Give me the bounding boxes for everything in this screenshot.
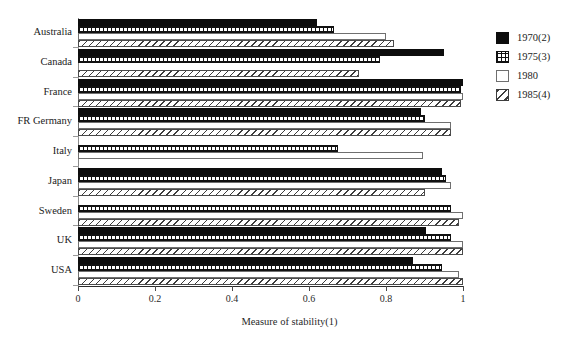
category-label: Japan (0, 175, 72, 186)
bar (78, 33, 386, 40)
bar (78, 19, 317, 26)
x-tick (155, 286, 156, 291)
category-label: France (0, 86, 72, 97)
bar (78, 108, 421, 115)
bar (78, 264, 442, 271)
bar (78, 219, 459, 226)
legend-swatch (496, 89, 509, 101)
x-tick-label: 0 (76, 293, 81, 304)
bar (78, 100, 461, 107)
legend-swatch (496, 70, 509, 82)
bar (78, 182, 451, 189)
bar (78, 122, 451, 129)
x-tick-label: 0.6 (303, 293, 316, 304)
legend-swatch (496, 51, 509, 63)
bar (78, 115, 425, 122)
bar (78, 26, 334, 33)
category-divider (73, 166, 79, 167)
category-label: Canada (0, 56, 72, 67)
bar (78, 49, 444, 56)
bar (78, 189, 425, 196)
legend-label: 1980 (517, 70, 538, 81)
category-label: USA (0, 264, 72, 275)
x-tick (463, 286, 464, 291)
category-label: Australia (0, 26, 72, 37)
x-tick-label: 0.2 (149, 293, 162, 304)
legend-item: 1970(2) (496, 28, 576, 47)
category-label: UK (0, 234, 72, 245)
bar (78, 129, 451, 136)
legend-swatch (496, 32, 509, 44)
bar (78, 278, 463, 285)
legend-label: 1970(2) (517, 32, 550, 43)
x-tick (232, 286, 233, 291)
chart-legend: 1970(2)1975(3)19801985(4) (496, 28, 576, 104)
bar (78, 234, 451, 241)
bar (78, 227, 426, 234)
bar (78, 145, 338, 152)
bar (78, 152, 423, 159)
bar (78, 79, 463, 86)
x-tick (309, 286, 310, 291)
bar (78, 241, 463, 248)
legend-label: 1985(4) (517, 89, 550, 100)
bar (78, 56, 380, 63)
bar (78, 257, 413, 264)
bar (78, 86, 461, 93)
category-label: Sweden (0, 205, 72, 216)
x-axis-title: Measure of stability(1) (0, 316, 579, 327)
bar (78, 248, 463, 255)
bar (78, 40, 394, 47)
category-label: Italy (0, 145, 72, 156)
bar (78, 205, 451, 212)
bar (78, 93, 463, 100)
bar (78, 168, 442, 175)
stability-bar-chart: 00.20.40.60.81 Measure of stability(1) A… (0, 0, 579, 338)
bar (78, 212, 463, 219)
legend-item: 1980 (496, 66, 576, 85)
category-label: FR Germany (0, 115, 72, 126)
legend-item: 1975(3) (496, 47, 576, 66)
x-tick (386, 286, 387, 291)
x-tick (78, 286, 79, 291)
bar (78, 271, 459, 278)
x-tick-label: 0.8 (380, 293, 393, 304)
x-axis-line (78, 286, 464, 287)
x-tick-label: 0.4 (226, 293, 239, 304)
bar (78, 175, 446, 182)
x-tick-label: 1 (461, 293, 466, 304)
legend-label: 1975(3) (517, 51, 550, 62)
bar (78, 70, 359, 77)
legend-item: 1985(4) (496, 85, 576, 104)
